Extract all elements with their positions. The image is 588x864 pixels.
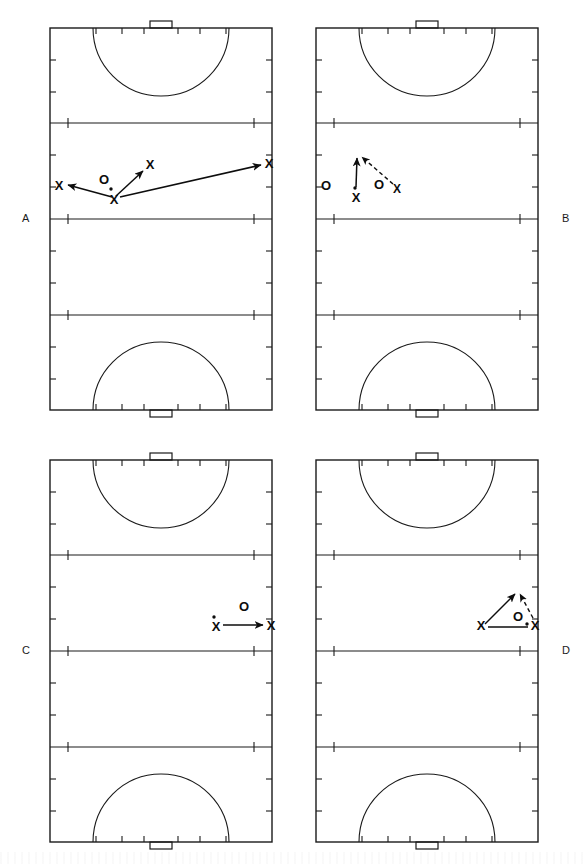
field-diagram-b: O X O X: [294, 0, 588, 432]
marker-teammate-x-left: X: [55, 178, 64, 193]
diagram-panel-d: D: [294, 432, 588, 864]
player-markers-b: O X O X: [321, 177, 401, 205]
pitch-outline-c: [50, 460, 272, 842]
field-diagram-c: X O X: [0, 432, 294, 864]
player-markers-d: X O X: [477, 609, 540, 633]
marker-teammate-x-left: X: [477, 618, 486, 633]
run-arrow-diagonal: [485, 594, 515, 624]
pitch-outline-d: [316, 460, 538, 842]
marker-ball-carrier-x: X: [531, 618, 540, 633]
marker-teammate-x-right: X: [393, 182, 401, 196]
diagram-panel-a: A: [0, 0, 294, 432]
marker-ball-carrier-x: X: [110, 192, 119, 207]
marker-defender-o: O: [239, 599, 249, 614]
pitch-outline-b: [316, 28, 538, 410]
play-arrows-a: [68, 165, 261, 197]
marker-wing-o-left: O: [321, 178, 331, 193]
player-markers-a: X O X X X: [55, 156, 274, 207]
marker-teammate-x-upper: X: [146, 157, 155, 172]
marker-teammate-x-right: X: [267, 618, 276, 633]
diagram-panel-b: B: [294, 0, 588, 432]
figure-sheet: A: [0, 0, 588, 864]
ball-dot: [525, 622, 528, 625]
marker-defender-o: O: [374, 177, 384, 192]
field-diagram-a: X O X X X: [0, 0, 294, 432]
player-markers-c: X O X: [212, 599, 276, 634]
marker-defender-o: O: [99, 172, 109, 187]
pitch-outline-a: [50, 28, 272, 410]
field-diagram-d: X O X: [294, 432, 588, 864]
run-arrow-solid: [356, 158, 357, 187]
marker-teammate-x-right: X: [265, 156, 274, 171]
page-bleed-artifact: [0, 852, 588, 864]
marker-defender-o: O: [513, 609, 523, 624]
diagram-panel-c: C: [0, 432, 294, 864]
ball-dot: [109, 187, 112, 190]
marker-ball-carrier-x: X: [352, 190, 361, 205]
marker-ball-carrier-x: X: [212, 619, 221, 634]
play-arrows-d: [485, 594, 533, 627]
